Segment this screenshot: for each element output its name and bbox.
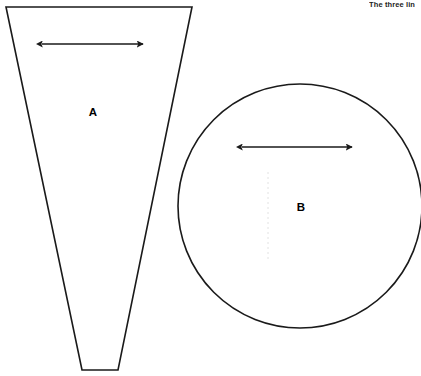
- shape-label-a: A: [89, 106, 97, 118]
- figure-canvas: A B The three lin: [0, 0, 421, 376]
- shape-truncated-triangle-a: [6, 7, 192, 370]
- caption-text-fragment: The three lin: [369, 0, 415, 7]
- diagram-svg: A B: [0, 0, 421, 376]
- shape-label-b: B: [297, 201, 305, 213]
